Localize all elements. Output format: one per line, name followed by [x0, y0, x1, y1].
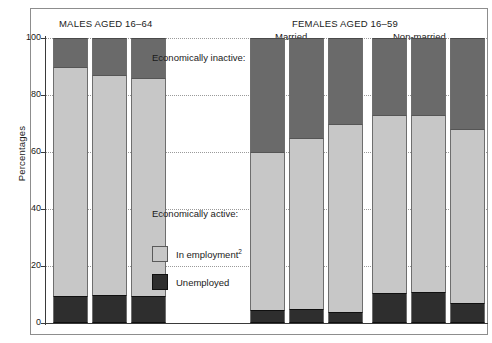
- legend-swatch-in-employment: [152, 246, 168, 262]
- segment-unemployed[interactable]: [411, 292, 446, 323]
- segment-employed[interactable]: [92, 75, 127, 294]
- segment-inactive[interactable]: [450, 38, 485, 129]
- legend-label-in-employment: In employment2: [176, 248, 242, 260]
- segment-unemployed[interactable]: [289, 309, 324, 323]
- bar-married-1981[interactable]: [250, 38, 285, 323]
- ytick-label-100: 100: [15, 33, 41, 42]
- ytick-label-20: 20: [15, 261, 41, 270]
- segment-inactive[interactable]: [372, 38, 407, 115]
- segment-inactive[interactable]: [250, 38, 285, 152]
- bar-married-1992[interactable]: [328, 38, 363, 323]
- segment-unemployed[interactable]: [53, 296, 88, 323]
- legend-swatch-unemployed: [152, 274, 168, 290]
- stacked-bar-chart: Percentages 100 80 60 40 20 0 MALES AGED…: [0, 0, 492, 343]
- bar-married-1986[interactable]: [289, 38, 324, 323]
- segment-unemployed[interactable]: [131, 296, 166, 323]
- legend-label-in-employment-text: In employment: [176, 249, 238, 260]
- segment-employed[interactable]: [131, 78, 166, 296]
- legend-heading-active: Economically active:: [152, 208, 238, 219]
- bar-non-married-1986[interactable]: [411, 38, 446, 323]
- bar-males-1981[interactable]: [53, 38, 88, 323]
- segment-unemployed[interactable]: [372, 293, 407, 323]
- segment-employed[interactable]: [289, 138, 324, 309]
- segment-inactive[interactable]: [289, 38, 324, 138]
- ytick-label-80: 80: [15, 90, 41, 99]
- bar-males-1986[interactable]: [92, 38, 127, 323]
- segment-employed[interactable]: [250, 152, 285, 310]
- segment-inactive[interactable]: [53, 38, 88, 67]
- x-axis-line: [45, 323, 488, 324]
- segment-employed[interactable]: [372, 115, 407, 293]
- legend-footnote-marker: 2: [238, 248, 242, 255]
- segment-inactive[interactable]: [92, 38, 127, 75]
- ytick-label-40: 40: [15, 204, 41, 213]
- bar-non-married-1981[interactable]: [372, 38, 407, 323]
- segment-inactive[interactable]: [411, 38, 446, 115]
- bar-non-married-1992[interactable]: [450, 38, 485, 323]
- segment-employed[interactable]: [53, 67, 88, 296]
- ytick-label-0: 0: [15, 318, 41, 327]
- legend-heading-inactive: Economically inactive:: [152, 52, 245, 63]
- panel-title-males: MALES AGED 16–64: [59, 18, 153, 29]
- segment-unemployed[interactable]: [92, 295, 127, 324]
- segment-employed[interactable]: [411, 115, 446, 292]
- segment-employed[interactable]: [450, 129, 485, 303]
- segment-unemployed[interactable]: [328, 312, 363, 323]
- segment-inactive[interactable]: [328, 38, 363, 124]
- segment-unemployed[interactable]: [450, 303, 485, 323]
- plot-area: 1981 1986 1992 1981 1986 1992 1981 1986 …: [46, 38, 487, 323]
- ytick-label-60: 60: [15, 147, 41, 156]
- segment-employed[interactable]: [328, 124, 363, 312]
- panel-title-females: FEMALES AGED 16–59: [292, 18, 398, 29]
- legend-label-unemployed: Unemployed: [176, 277, 229, 288]
- legend-item-unemployed[interactable]: Unemployed: [152, 274, 229, 290]
- segment-unemployed[interactable]: [250, 310, 285, 323]
- legend-item-in-employment[interactable]: In employment2: [152, 246, 242, 262]
